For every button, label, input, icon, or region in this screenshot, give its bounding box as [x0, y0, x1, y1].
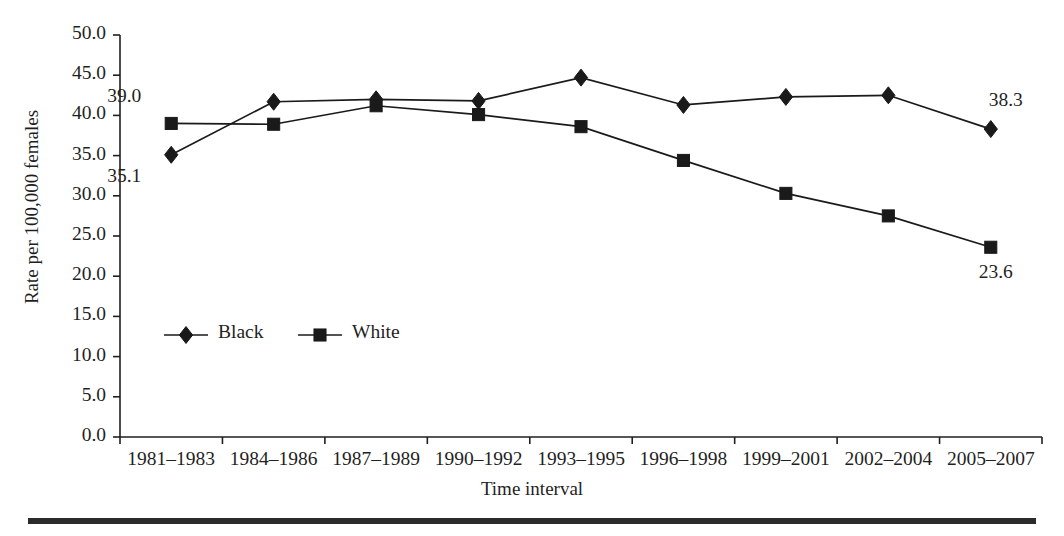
y-axis-tick-label: 50.0: [36, 22, 106, 44]
data-point-marker-diamond: [574, 69, 587, 86]
data-point-marker-diamond: [472, 92, 485, 109]
data-point-marker-diamond: [677, 96, 690, 113]
data-point-marker-square: [165, 117, 177, 129]
legend-label-black: Black: [218, 321, 263, 343]
x-axis-title: Time interval: [0, 478, 1064, 500]
data-point-marker-diamond: [984, 121, 997, 138]
axis-lines: [120, 35, 1042, 437]
data-point-marker-diamond: [882, 87, 895, 104]
y-axis-tick-label: 5.0: [36, 384, 106, 406]
data-point-annotation: 38.3: [976, 89, 1036, 111]
data-point-marker-diamond: [179, 327, 192, 344]
y-axis-tick-label: 15.0: [36, 303, 106, 325]
y-axis-tick-label: 45.0: [36, 62, 106, 84]
data-point-marker-square: [314, 329, 326, 341]
data-point-marker-square: [473, 109, 485, 121]
data-point-marker-square: [677, 154, 689, 166]
y-axis-tick-label: 10.0: [36, 344, 106, 366]
y-axis-tick-label: 20.0: [36, 263, 106, 285]
data-point-marker-square: [882, 210, 894, 222]
series-white: [165, 100, 997, 254]
data-point-marker-diamond: [165, 146, 178, 163]
series-line-black: [171, 78, 991, 155]
data-point-annotation: 23.6: [966, 261, 1026, 283]
data-point-marker-square: [575, 121, 587, 133]
data-series-layer: [165, 69, 998, 253]
data-point-marker-diamond: [779, 88, 792, 105]
data-point-marker-square: [780, 187, 792, 199]
data-point-marker-square: [370, 100, 382, 112]
data-point-marker-diamond: [267, 93, 280, 110]
y-axis-tick-label: 25.0: [36, 223, 106, 245]
y-axis-tick-label: 0.0: [36, 424, 106, 446]
x-axis-tick-label: 2005–2007: [931, 448, 1051, 470]
chart-figure: Rate per 100,000 females Time interval 0…: [0, 0, 1064, 536]
data-point-annotation: 35.1: [94, 165, 154, 187]
bottom-divider-rule: [28, 518, 1036, 524]
x-axis-ticks: [120, 437, 1042, 444]
data-point-annotation: 39.0: [94, 85, 154, 107]
series-black: [165, 69, 998, 163]
data-point-marker-square: [985, 241, 997, 253]
legend-label-white: White: [352, 321, 400, 343]
y-axis-tick-label: 35.0: [36, 143, 106, 165]
data-point-marker-square: [268, 118, 280, 130]
